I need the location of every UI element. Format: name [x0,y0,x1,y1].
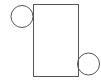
top-left-circle [11,6,33,28]
bottom-right-circle [78,53,100,75]
main-rectangle [34,5,79,77]
diagram-canvas [0,0,101,81]
